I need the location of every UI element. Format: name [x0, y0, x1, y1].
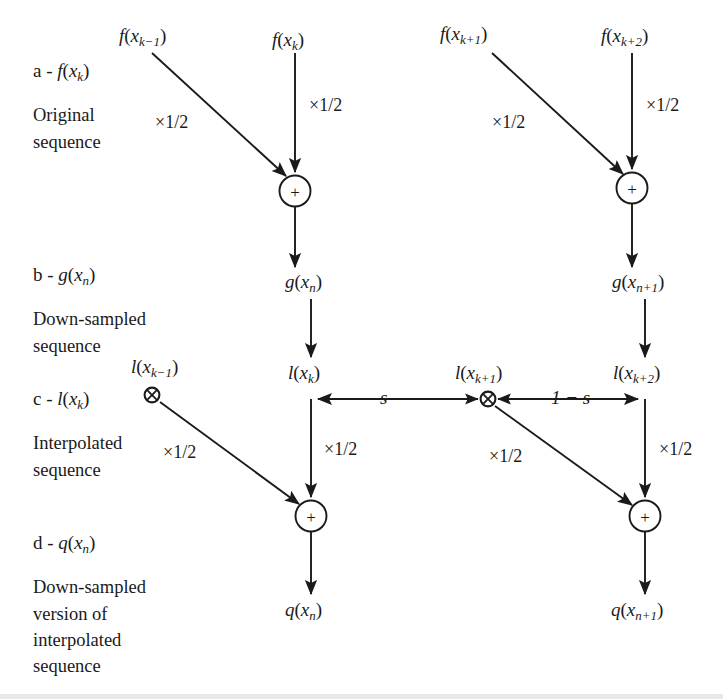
g-n-plus-1-arg: x [628, 271, 636, 292]
row-d-fn: q [58, 532, 68, 553]
node-label-l-x-k: l(xk) [288, 363, 320, 386]
row-label-a: a - f(xk) Original sequence [33, 58, 101, 155]
node-label-g-x-n: g(xn) [285, 272, 322, 295]
l-k-plus-2-fn: l [613, 362, 618, 383]
node-label-q-x-n-plus-1: q(xn+1) [611, 600, 663, 623]
l-k-plus-2-arg: x [625, 362, 633, 383]
bottom-divider [0, 694, 723, 699]
plus-bottom-right: + [640, 508, 650, 527]
q-n-plus-1-fn: q [611, 599, 621, 620]
f-k-minus-1-sub: k−1 [139, 34, 160, 49]
figure-canvas: + + + + a - f(xk) Original sequence b - … [0, 0, 723, 699]
g-n-plus-1-fn: g [612, 271, 622, 292]
node-label-l-x-k-plus-1: l(xk+1) [455, 363, 502, 386]
plus-top-left: + [290, 183, 300, 202]
f-k-plus-1-fn: f [440, 23, 445, 44]
row-a-desc-line-2: sequence [33, 129, 101, 155]
row-c-fn: l [57, 388, 62, 409]
row-label-b: b - g(xn) Down-sampled sequence [33, 262, 146, 359]
row-b-desc-line-2: sequence [33, 333, 146, 359]
node-label-f-x-k-minus-1: f(xk−1) [119, 26, 166, 49]
row-label-c: c - l(xk) Interpolated sequence [33, 386, 122, 483]
f-k-plus-1-sub: k+1 [460, 32, 481, 47]
g-n-fn: g [285, 271, 295, 292]
node-label-l-x-k-plus-2: l(xk+2) [613, 363, 660, 386]
row-a-sub: k [77, 69, 83, 84]
l-k-plus-1-fn: l [455, 362, 460, 383]
row-a-desc-line-1: Original [33, 102, 101, 128]
row-c-sub: k [77, 397, 83, 412]
q-n-plus-1-arg: x [627, 599, 635, 620]
row-b-heading: b - g(xn) [33, 262, 146, 290]
l-k-minus-1-sub: k−1 [151, 365, 172, 380]
row-c-desc-line-1: Interpolated [33, 430, 122, 456]
l-k-sub: k [308, 371, 314, 386]
f-k-plus-2-fn: f [601, 25, 606, 46]
row-d-desc-line-4: sequence [33, 653, 146, 679]
q-n-sub: n [309, 608, 315, 623]
weight-half-a-center-right: ×1/2 [646, 96, 679, 115]
row-a-fn: f [57, 60, 62, 81]
weight-half-a-right: ×1/2 [492, 113, 525, 132]
row-c-prefix: c - [33, 388, 57, 409]
node-label-f-x-k: f(xk) [272, 30, 304, 53]
row-d-sub: n [83, 541, 89, 556]
row-b-desc-line-1: Down-sampled [33, 306, 146, 332]
f-k-minus-1-fn: f [119, 25, 124, 46]
row-label-d: d - q(xn) Down-sampled version of interp… [33, 530, 146, 680]
g-n-arg: x [301, 271, 309, 292]
f-k-plus-2-sub: k+2 [621, 34, 642, 49]
f-k-plus-2-arg: x [613, 25, 621, 46]
l-k-minus-1-arg: x [143, 356, 151, 377]
weight-half-c-right: ×1/2 [489, 447, 522, 466]
sum-node-plus-glyphs: + + + + [290, 180, 650, 527]
f-k-fn: f [272, 29, 277, 50]
l-k-plus-1-arg: x [467, 362, 475, 383]
row-c-desc-line-2: sequence [33, 457, 122, 483]
l-k-plus-2-sub: k+2 [633, 371, 654, 386]
row-b-fn: g [58, 264, 68, 285]
q-n-plus-1-sub: n+1 [635, 608, 657, 623]
row-c-heading: c - l(xk) [33, 386, 122, 414]
weight-half-c-center-right: ×1/2 [659, 440, 692, 459]
q-n-arg: x [301, 599, 309, 620]
plus-top-right: + [627, 180, 637, 199]
row-d-heading: d - q(xn) [33, 530, 146, 558]
row-b-sub: n [83, 273, 89, 288]
node-label-f-x-k-plus-2: f(xk+2) [601, 26, 648, 49]
node-label-f-x-k-plus-1: f(xk+1) [440, 24, 487, 47]
mult-left-node [145, 388, 160, 403]
f-k-sub: k [292, 38, 298, 53]
weight-half-c-left: ×1/2 [163, 443, 196, 462]
row-d-arg: x [74, 532, 82, 553]
weight-half-a-left: ×1/2 [155, 113, 188, 132]
l-k-arg: x [300, 362, 308, 383]
weight-half-a-center-left: ×1/2 [309, 96, 342, 115]
l-k-minus-1-fn: l [131, 356, 136, 377]
g-n-sub: n [309, 280, 315, 295]
l-k-fn: l [288, 362, 293, 383]
row-d-desc-line-1: Down-sampled [33, 574, 146, 600]
node-label-l-x-k-minus-1: l(xk−1) [131, 357, 178, 380]
weight-s: s [380, 388, 387, 408]
f-k-plus-1-arg: x [452, 23, 460, 44]
weight-half-c-center-left: ×1/2 [324, 440, 357, 459]
q-n-fn: q [285, 599, 295, 620]
row-a-prefix: a - [33, 60, 57, 81]
row-d-desc-line-2: version of [33, 601, 146, 627]
weight-one-minus-s: 1 − s [551, 388, 590, 408]
plus-bottom-left: + [306, 508, 316, 527]
row-b-arg: x [74, 264, 82, 285]
node-label-q-x-n: q(xn) [285, 600, 322, 623]
row-d-prefix: d - [33, 532, 58, 553]
g-n-plus-1-sub: n+1 [636, 280, 658, 295]
mult-center-node [481, 392, 496, 407]
l-k-plus-1-sub: k+1 [475, 371, 496, 386]
f-k-arg: x [284, 29, 292, 50]
node-label-g-x-n-plus-1: g(xn+1) [612, 272, 664, 295]
row-d-desc-line-3: interpolated [33, 627, 146, 653]
f-k-minus-1-arg: x [131, 25, 139, 46]
row-b-prefix: b - [33, 264, 58, 285]
row-a-heading: a - f(xk) [33, 58, 101, 86]
